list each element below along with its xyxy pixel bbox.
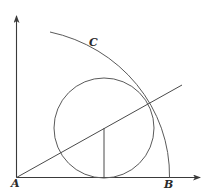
diagram-canvas bbox=[0, 0, 212, 196]
ray-from-a bbox=[17, 85, 183, 178]
label-c: C bbox=[89, 37, 98, 48]
geometry-diagram: A B C bbox=[0, 0, 212, 196]
arc-c bbox=[50, 32, 170, 178]
label-a: A bbox=[11, 178, 20, 189]
label-b: B bbox=[164, 179, 173, 190]
